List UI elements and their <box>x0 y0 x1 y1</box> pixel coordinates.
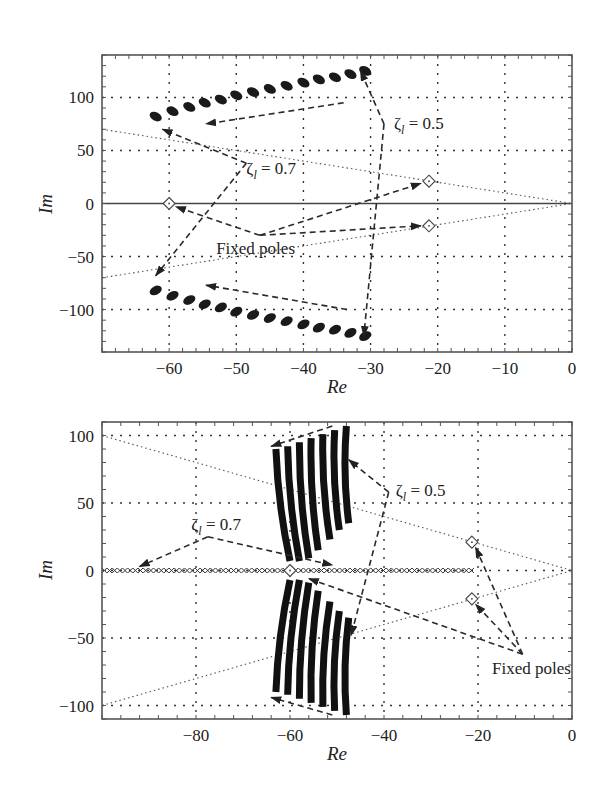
real-axis-pole-marker <box>391 568 396 573</box>
y-axis-label: Im <box>35 194 56 215</box>
real-axis-pole-marker <box>169 568 174 573</box>
real-axis-pole-marker <box>262 568 267 573</box>
y-tick-label: −50 <box>67 629 94 648</box>
y-tick-label: 50 <box>77 494 94 513</box>
real-axis-pole-marker <box>195 568 200 573</box>
closed-loop-pole-arc <box>323 434 330 539</box>
y-tick-label: −50 <box>67 248 94 267</box>
fixed-pole-dot <box>471 541 473 543</box>
closed-loop-pole-cluster <box>296 76 312 90</box>
real-axis-pole-marker <box>469 568 474 573</box>
y-tick-label: 50 <box>77 141 94 160</box>
x-tick-label: 0 <box>568 726 577 745</box>
annotation-arrow <box>206 103 344 124</box>
closed-loop-pole-cluster <box>357 329 373 343</box>
axes-frame: −80−60−40−200100500−50−100 <box>59 422 576 745</box>
annotation-arrow <box>349 460 389 492</box>
real-axis-pole-marker <box>123 568 128 573</box>
closed-loop-pole-arc <box>334 430 339 530</box>
closed-loop-pole-cluster <box>279 79 295 93</box>
x-axis-label: Re <box>326 376 347 397</box>
real-axis-pole-marker <box>329 568 334 573</box>
fixed-poles-label: Fixed poles <box>216 239 295 258</box>
real-axis-pole-marker <box>226 568 231 573</box>
closed-loop-pole-arc <box>311 591 318 703</box>
damping-ratio-line <box>102 129 572 203</box>
annotation-arrow <box>260 183 421 235</box>
closed-loop-pole-cluster <box>148 284 164 298</box>
fixed-pole-dot <box>471 598 473 600</box>
closed-loop-pole-cluster <box>165 104 181 118</box>
x-tick-label: −60 <box>277 726 304 745</box>
fixed-pole-dot <box>168 203 170 205</box>
real-axis-pole-marker <box>128 568 133 573</box>
pole-markers <box>102 426 478 715</box>
real-axis-pole-marker <box>335 568 340 573</box>
real-axis-pole-marker <box>221 568 226 573</box>
damping-ratio-label: ζl = 0.5 <box>394 114 444 137</box>
closed-loop-pole-cluster <box>262 82 278 96</box>
closed-loop-pole-cluster <box>213 93 229 107</box>
real-axis-pole-marker <box>412 568 417 573</box>
top-root-locus-plot: ζl = 0.5ζl = 0.7Fixed poles −60−50−40−30… <box>35 55 576 397</box>
closed-loop-pole-cluster <box>357 64 373 78</box>
closed-loop-pole-cluster <box>343 326 359 340</box>
closed-loop-pole-arc <box>299 583 308 699</box>
y-tick-label: 100 <box>69 427 95 446</box>
y-tick-label: 100 <box>69 88 95 107</box>
y-tick-label: −100 <box>59 697 94 716</box>
damping-ratio-label: ζl = 0.5 <box>396 481 446 504</box>
root-locus-figure: ζl = 0.5ζl = 0.7Fixed poles −60−50−40−30… <box>0 0 604 804</box>
real-axis-pole-marker <box>200 568 205 573</box>
closed-loop-pole-cluster <box>343 67 359 81</box>
real-axis-pole-marker <box>407 568 412 573</box>
real-axis-pole-marker <box>448 568 453 573</box>
real-axis-pole-marker <box>340 568 345 573</box>
real-axis-pole-marker <box>278 568 283 573</box>
real-axis-pole-marker <box>443 568 448 573</box>
x-tick-label: −60 <box>156 359 183 378</box>
closed-loop-pole-arc <box>345 618 349 715</box>
x-tick-label: 0 <box>568 359 577 378</box>
damping-ratio-label: ζl = 0.7 <box>191 515 241 538</box>
x-tick-label: −30 <box>357 359 384 378</box>
real-axis-pole-marker <box>133 568 138 573</box>
fixed-pole-dot <box>428 180 430 182</box>
closed-loop-pole-cluster <box>262 311 278 325</box>
x-tick-label: −10 <box>492 359 519 378</box>
real-axis-pole-marker <box>428 568 433 573</box>
closed-loop-pole-cluster <box>327 323 343 337</box>
real-axis-pole-marker <box>371 568 376 573</box>
real-axis-pole-marker <box>148 568 153 573</box>
x-tick-label: −80 <box>183 726 210 745</box>
closed-loop-pole-arc <box>323 602 330 707</box>
closed-loop-pole-cluster <box>311 73 327 87</box>
x-tick-label: −40 <box>371 726 398 745</box>
fixed-poles-label: Fixed poles <box>492 659 571 678</box>
real-axis-pole-marker <box>159 568 164 573</box>
real-axis-pole-marker <box>231 568 236 573</box>
annotation-arrow <box>140 537 208 567</box>
damping-ratio-line <box>102 204 572 278</box>
closed-loop-pole-arc <box>345 426 349 523</box>
real-axis-pole-marker <box>298 568 303 573</box>
fixed-pole-dot <box>289 570 291 572</box>
real-axis-pole-marker <box>267 568 272 573</box>
closed-loop-pole-cluster <box>311 321 327 335</box>
closed-loop-pole-arc <box>334 611 339 711</box>
real-axis-pole-marker <box>303 568 308 573</box>
real-axis-pole-marker <box>402 568 407 573</box>
damping-ratio-label: ζl = 0.7 <box>246 159 296 182</box>
bottom-root-locus-plot: ζl = 0.5ζl = 0.7Fixed poles −80−60−40−20… <box>35 422 576 764</box>
annotation-arrow <box>206 285 347 309</box>
closed-loop-pole-arc <box>311 438 318 550</box>
y-axis-label: Im <box>35 560 56 581</box>
x-tick-label: −20 <box>424 359 451 378</box>
annotation-arrow <box>176 207 260 236</box>
fixed-pole-dot <box>428 225 430 227</box>
closed-loop-pole-cluster <box>165 289 181 303</box>
closed-loop-pole-cluster <box>213 301 229 315</box>
closed-loop-pole-arc <box>299 442 308 558</box>
closed-loop-pole-cluster <box>182 293 198 307</box>
y-tick-label: −100 <box>59 301 94 320</box>
